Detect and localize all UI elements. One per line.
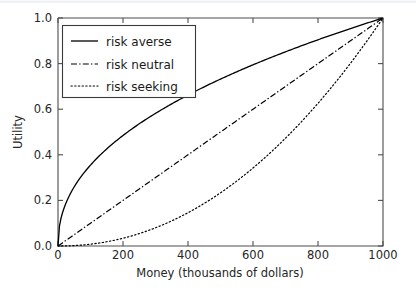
chart-figure: 0 200 400 600 800 1000 0.0 0.2 0.4 0.6 0… bbox=[0, 0, 416, 296]
legend: risk averse risk neutral risk seeking bbox=[63, 26, 196, 98]
x-tick-label: 600 bbox=[242, 248, 264, 262]
y-tick-label: 0.8 bbox=[34, 57, 52, 71]
y-tick-label: 0.4 bbox=[34, 148, 52, 162]
y-tick-label: 1.0 bbox=[34, 11, 52, 25]
x-tick-label: 1000 bbox=[368, 248, 397, 262]
x-tick-label: 200 bbox=[112, 248, 134, 262]
x-tick-labels: 0 200 400 600 800 1000 bbox=[54, 248, 397, 262]
legend-label-risk-seeking: risk seeking bbox=[106, 80, 178, 94]
legend-label-risk-neutral: risk neutral bbox=[106, 58, 174, 72]
y-tick-labels: 0.0 0.2 0.4 0.6 0.8 1.0 bbox=[34, 11, 52, 253]
utility-curves-chart: 0 200 400 600 800 1000 0.0 0.2 0.4 0.6 0… bbox=[0, 0, 416, 296]
y-axis-label: Utility bbox=[11, 115, 25, 149]
x-axis-label: Money (thousands of dollars) bbox=[136, 266, 303, 280]
x-tick-label: 400 bbox=[177, 248, 199, 262]
y-tick-label: 0.0 bbox=[34, 239, 52, 253]
y-tick-label: 0.2 bbox=[34, 193, 52, 207]
x-tick-label: 800 bbox=[307, 248, 329, 262]
x-tick-label: 0 bbox=[54, 248, 61, 262]
y-tick-label: 0.6 bbox=[34, 102, 52, 116]
legend-label-risk-averse: risk averse bbox=[106, 35, 172, 49]
